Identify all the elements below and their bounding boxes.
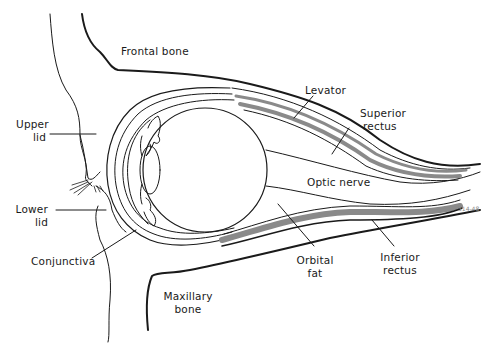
- frontal-bone-outline: [82, 14, 480, 166]
- upper-lid-shape: [80, 135, 100, 179]
- label-upper-lid-line1: Upper: [16, 118, 46, 131]
- label-levator: Levator: [305, 84, 346, 97]
- label-conjunctiva: Conjunctiva: [31, 255, 95, 268]
- cornea: [128, 120, 150, 224]
- iris-upper: [141, 136, 143, 156]
- artist-signature: 314-48: [458, 205, 479, 212]
- label-maxillary-bone-line2: bone: [160, 303, 216, 316]
- eye-orbit-diagram: 314-48: [0, 0, 503, 350]
- eyelashes: [70, 180, 103, 195]
- label-lower-lid-line1: Lower: [14, 203, 48, 216]
- label-inferior-rectus: Inferior rectus: [375, 251, 425, 277]
- label-orbital-fat-line1: Orbital: [290, 254, 340, 267]
- label-frontal-bone: Frontal bone: [121, 45, 189, 58]
- label-orbital-fat: Orbital fat: [290, 254, 340, 280]
- label-superior-rectus: Superior rectus: [360, 107, 406, 133]
- label-lower-lid: Lower lid: [14, 203, 48, 229]
- label-lower-lid-line2: lid: [14, 216, 48, 229]
- label-superior-rectus-line2: rectus: [360, 120, 406, 133]
- sclera-middle-layer: [115, 94, 232, 240]
- label-inferior-rectus-line1: Inferior: [375, 251, 425, 264]
- label-orbital-fat-line2: fat: [290, 267, 340, 280]
- label-superior-rectus-line1: Superior: [360, 107, 406, 120]
- levator-muscle: [232, 88, 470, 169]
- label-upper-lid-line2: lid: [16, 131, 46, 144]
- label-upper-lid: Upper lid: [16, 118, 46, 144]
- sclera-outer-layer: [107, 88, 230, 246]
- vitreous-chamber: [143, 108, 267, 232]
- iris-lower: [141, 184, 143, 204]
- levator-muscle-inner: [236, 96, 466, 171]
- label-maxillary-bone: Maxillary bone: [160, 290, 216, 316]
- lower-lid-shape: [96, 186, 126, 232]
- superior-rectus-muscle: [240, 104, 460, 176]
- label-maxillary-bone-line1: Maxillary: [160, 290, 216, 303]
- label-optic-nerve: Optic nerve: [307, 176, 370, 189]
- label-inferior-rectus-line2: rectus: [375, 264, 425, 277]
- cheek-profile-outline: [96, 206, 111, 342]
